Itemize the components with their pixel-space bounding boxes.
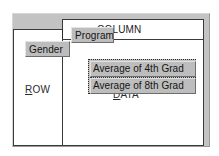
field-button-average-of-4th-grade[interactable]: Average of 4th Grad xyxy=(90,61,196,77)
data-field-selection-group[interactable]: Average of 4th Grad Average of 8th Grad xyxy=(88,59,196,94)
field-button-gender[interactable]: Gender xyxy=(25,41,70,57)
field-button-average-of-8th-grade[interactable]: Average of 8th Grad xyxy=(90,78,196,94)
field-button-program[interactable]: Program xyxy=(71,27,114,43)
pivot-table-layout-panel: COLUMN ROW DATA Program Gender Average o… xyxy=(12,13,210,147)
row-area-label: ROW xyxy=(25,84,50,95)
row-label-rest: OW xyxy=(32,84,50,95)
